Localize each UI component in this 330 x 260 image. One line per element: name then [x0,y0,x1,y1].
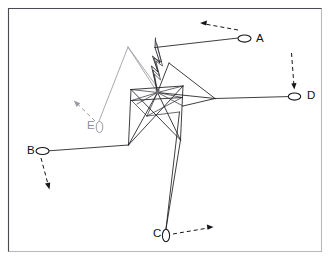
node-d-label: D [307,89,315,101]
node-c-ellipse[interactable] [162,229,169,241]
node-c-group[interactable]: C [153,225,214,242]
frame-outline-soft [9,9,322,252]
node-c-arrowhead-icon [207,225,214,230]
node-b-label: B [27,144,35,156]
node-e-ellipse[interactable] [96,121,103,132]
edge-c-to-cluster [166,112,180,229]
node-b-group[interactable]: B [27,144,50,190]
node-c-label: C [153,227,161,239]
edge-group-main [49,38,288,229]
node-e-group[interactable]: E [74,101,103,133]
edge-box-left [129,90,132,146]
edge-tri-a [131,90,158,93]
node-path-diagram: A B C D E [0,0,330,260]
node-b-direction-arrow [41,158,49,186]
edge-e-to-vertex [99,47,128,121]
node-d-ellipse[interactable] [288,93,300,100]
node-d-arrowhead-icon [291,83,296,90]
central-hub-marker [156,91,160,95]
edge-fan-d-1 [158,93,216,99]
frame-outline [9,9,322,252]
edge-a-stub [155,38,156,48]
edge-cross-4 [158,93,181,141]
node-a-direction-arrow [202,24,238,31]
edge-fan-d-3 [158,63,170,93]
edge-tail-to-c [166,140,181,229]
edge-box-right [181,86,184,140]
node-d-group[interactable]: D [288,53,315,101]
node-c-direction-arrow [173,228,211,235]
node-a-ellipse[interactable] [238,35,251,42]
edge-cross-5 [147,112,180,116]
node-d-direction-arrow [292,53,295,86]
node-a-label: A [256,32,264,44]
edge-d-to-fan [215,97,288,99]
node-a-arrowhead-icon [200,20,207,25]
edge-fan-d-4 [183,99,215,107]
node-e-label: E [87,119,95,131]
edge-b-to-cluster [49,145,129,151]
node-b-ellipse[interactable] [36,147,49,154]
edge-a-to-vertex [155,38,238,48]
node-b-arrowhead-icon [45,182,50,189]
node-a-group[interactable]: A [200,20,264,43]
diagram-canvas: A B C D E [0,0,330,260]
